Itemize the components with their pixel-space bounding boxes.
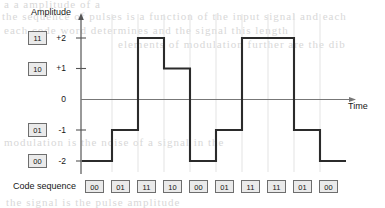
- y-tick-label-plus2: +2: [44, 33, 66, 43]
- legend-code-box-01: 01: [28, 123, 47, 137]
- waveform-plot: [0, 0, 385, 208]
- y-axis-title: Amplitude: [31, 7, 71, 17]
- y-tick-label-minus1: -1: [44, 125, 66, 135]
- code-sequence-item-7: 11: [241, 180, 260, 193]
- y-axis-arrow: [78, 13, 84, 20]
- code-sequence-label: Code sequence: [13, 181, 76, 191]
- code-sequence-item-4: 10: [163, 180, 182, 193]
- legend-code-box-11: 11: [28, 31, 47, 45]
- code-sequence-item-5: 00: [189, 180, 208, 193]
- code-sequence-item-2: 01: [111, 180, 130, 193]
- figure-canvas: a a amplitude of a the sequence of pulse…: [0, 0, 385, 208]
- legend-code-box-00: 00: [28, 154, 47, 168]
- code-sequence-item-10: 00: [319, 180, 338, 193]
- y-tick-label-plus1: +1: [44, 63, 66, 73]
- y-tick-label-minus2: -2: [44, 156, 66, 166]
- code-sequence-item-9: 01: [293, 180, 312, 193]
- code-sequence-item-6: 01: [215, 180, 234, 193]
- x-axis-title: Time: [348, 101, 368, 111]
- code-sequence-item-1: 00: [85, 180, 104, 193]
- y-tick-label-zero: 0: [44, 94, 66, 104]
- code-sequence-item-8: 11: [267, 180, 286, 193]
- legend-code-box-10: 10: [28, 62, 47, 76]
- code-sequence-item-3: 11: [137, 180, 156, 193]
